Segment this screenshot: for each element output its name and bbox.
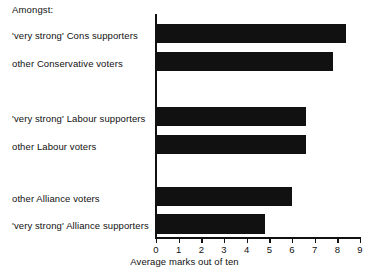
- category-label-labour-very-strong: 'very strong' Labour supporters: [12, 113, 145, 124]
- x-tick-5: [269, 238, 270, 243]
- bar-alliance-very-strong: [156, 214, 265, 234]
- bar-other-conservative: [156, 52, 333, 71]
- x-tick-6: [292, 238, 293, 243]
- bar-other-alliance: [156, 187, 292, 206]
- bar-other-labour: [156, 135, 306, 154]
- x-tick-0: [156, 238, 157, 243]
- x-tick-label-3: 3: [215, 244, 233, 255]
- x-tick-label-1: 1: [170, 244, 188, 255]
- x-tick-label-6: 6: [283, 244, 301, 255]
- category-label-other-alliance: other Alliance voters: [12, 193, 100, 204]
- category-label-alliance-very-strong: 'very strong' Alliance supporters: [12, 220, 149, 231]
- x-tick-3: [224, 238, 225, 243]
- category-label-other-conservative: other Conservative voters: [12, 58, 123, 69]
- x-tick-7: [315, 238, 316, 243]
- x-tick-label-0: 0: [147, 244, 165, 255]
- x-tick-1: [179, 238, 180, 243]
- x-tick-2: [201, 238, 202, 243]
- x-tick-label-8: 8: [328, 244, 346, 255]
- x-tick-8: [337, 238, 338, 243]
- x-tick-label-2: 2: [192, 244, 210, 255]
- category-label-other-labour: other Labour voters: [12, 141, 96, 152]
- x-tick-label-7: 7: [306, 244, 324, 255]
- bar-chart: Amongst: 'very strong' Cons supporters o…: [0, 0, 369, 279]
- bar-cons-very-strong: [156, 24, 346, 43]
- x-axis-line: [155, 237, 361, 239]
- x-tick-9: [360, 238, 361, 243]
- bar-labour-very-strong: [156, 107, 306, 126]
- x-tick-label-4: 4: [238, 244, 256, 255]
- amongst-heading: Amongst:: [12, 4, 53, 15]
- x-tick-label-9: 9: [351, 244, 369, 255]
- category-label-cons-very-strong: 'very strong' Cons supporters: [12, 30, 138, 41]
- plot-area: 0123456789: [156, 14, 360, 237]
- x-tick-4: [247, 238, 248, 243]
- x-axis-title: Average marks out of ten: [0, 256, 369, 267]
- x-tick-label-5: 5: [260, 244, 278, 255]
